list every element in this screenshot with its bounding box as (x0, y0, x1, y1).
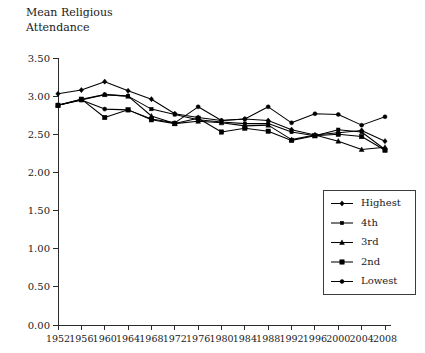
x-axis-tick-label: 2008 (373, 333, 397, 344)
x-axis-tick-label: 1984 (233, 333, 257, 344)
data-point (219, 130, 223, 134)
data-point (383, 148, 387, 152)
x-axis-tick-label: 1992 (279, 333, 303, 344)
legend-label: Highest (361, 197, 401, 208)
religious-attendance-chart: Mean ReligiousAttendance0.000.501.001.50… (0, 0, 425, 353)
legend-marker (340, 260, 344, 264)
y-axis-tick-label: 1.50 (28, 205, 50, 216)
y-axis-tick-label: 0.50 (28, 281, 50, 292)
legend-label: Lowest (361, 275, 397, 286)
data-point (289, 138, 293, 142)
x-axis-tick-label: 1968 (139, 333, 163, 344)
data-point (243, 117, 247, 121)
x-axis-tick-label: 1956 (69, 333, 93, 344)
data-point (337, 128, 340, 131)
x-axis-tick-label: 1960 (93, 333, 117, 344)
data-point (359, 134, 363, 138)
data-point (336, 112, 340, 116)
legend-marker (340, 280, 344, 284)
data-point (360, 123, 364, 127)
x-axis-tick-label: 1952 (46, 333, 70, 344)
data-point (149, 97, 153, 102)
data-point (79, 87, 83, 92)
chart-legend: Highest4th3rd2ndLowest (323, 190, 415, 294)
data-point (360, 130, 363, 133)
legend-marker (340, 221, 343, 224)
y-axis-tick-label: 3.00 (28, 91, 50, 102)
data-point (196, 105, 200, 109)
legend-label: 2nd (361, 256, 381, 267)
line-chart-canvas: Mean ReligiousAttendance0.000.501.001.50… (0, 0, 425, 353)
data-point (290, 121, 294, 125)
data-point (126, 108, 130, 112)
data-point (196, 116, 200, 120)
x-axis-tick-label: 2000 (326, 333, 350, 344)
data-point (220, 119, 224, 123)
data-point (336, 132, 340, 136)
data-point (173, 121, 177, 125)
x-axis-tick-label: 1988 (256, 333, 280, 344)
data-point (103, 115, 107, 119)
data-point (313, 112, 317, 116)
data-point (103, 107, 107, 111)
x-axis-tick-label: 2004 (350, 333, 374, 344)
y-axis-tick-label: 2.50 (28, 129, 50, 140)
data-point (79, 98, 83, 102)
data-point (103, 79, 107, 84)
legend-label: 4th (361, 217, 378, 228)
x-axis-tick-label: 1964 (116, 333, 140, 344)
y-axis-title-line2: Attendance (25, 21, 90, 34)
legend-label: 3rd (361, 236, 379, 247)
data-point (126, 88, 130, 93)
data-point (243, 126, 247, 130)
x-axis-tick-label: 1976 (186, 333, 210, 344)
data-point (383, 115, 387, 119)
data-point (56, 103, 60, 107)
data-point (266, 105, 270, 109)
data-point (266, 129, 270, 133)
series-lowest (56, 98, 387, 127)
data-point (313, 134, 317, 138)
x-axis-tick-label: 1972 (163, 333, 187, 344)
data-point (383, 139, 387, 144)
x-axis-tick-label: 1996 (303, 333, 327, 344)
data-point (150, 107, 153, 110)
data-point (149, 117, 153, 121)
y-axis-tick-label: 1.00 (28, 243, 50, 254)
y-axis-tick-label: 0.00 (28, 320, 50, 331)
x-axis-tick-label: 1980 (209, 333, 233, 344)
y-axis-tick-label: 3.50 (28, 53, 50, 64)
y-axis-tick-label: 2.00 (28, 167, 50, 178)
y-axis-title-line1: Mean Religious (26, 6, 113, 19)
data-point (290, 130, 293, 133)
data-point (173, 113, 176, 116)
